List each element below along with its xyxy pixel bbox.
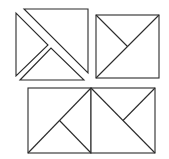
tangram-diagram — [0, 0, 169, 159]
top-left-exploded-square — [16, 9, 88, 80]
bottom-right-square — [91, 88, 155, 153]
bottom-left-square — [28, 88, 91, 153]
top-right-square — [96, 15, 159, 78]
